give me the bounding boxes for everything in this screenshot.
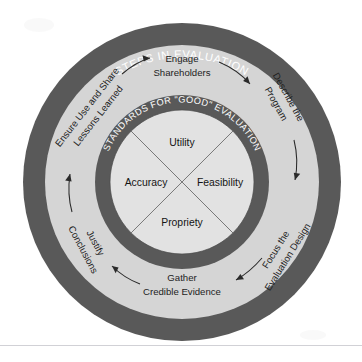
step-label-line1: Engage xyxy=(165,53,198,64)
evaluation-framework-diagram: STEPS IN EVALUATION STANDARDS FOR "GOOD"… xyxy=(0,0,362,362)
step-label-line2: Shareholders xyxy=(153,67,210,78)
diagram-canvas: STEPS IN EVALUATION STANDARDS FOR "GOOD"… xyxy=(0,0,362,362)
step-label-line2: Credible Evidence xyxy=(143,286,221,297)
scan-smudge xyxy=(300,330,326,340)
scan-smudge xyxy=(24,18,54,32)
standard-label-feasibility: Feasibility xyxy=(197,177,244,188)
step-label-line1: Gather xyxy=(167,272,197,283)
scan-line-artifact xyxy=(0,345,362,346)
standard-label-propriety: Propriety xyxy=(161,217,203,228)
standard-label-accuracy: Accuracy xyxy=(125,177,169,188)
standard-label-utility: Utility xyxy=(169,137,195,148)
